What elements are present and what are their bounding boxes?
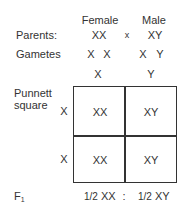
cross-symbol: x [125, 29, 130, 41]
male-header: Male [142, 14, 166, 26]
punnett-label-line1: Punnett [14, 87, 52, 99]
grid-horizontal-divider [74, 135, 176, 137]
parents-label: Parents: [16, 29, 57, 41]
f1-label-text: F [14, 190, 21, 202]
male-gamete-2: Y [156, 48, 163, 60]
genotype: XY [155, 190, 170, 202]
male-gamete-1: X [139, 48, 146, 60]
fraction: 1/2 [84, 191, 98, 202]
row-header-2: X [60, 153, 67, 165]
f1-label: F1 [14, 190, 25, 206]
column-header-x: X [94, 68, 101, 80]
f1-ratio-xx: 1/2 XX [84, 190, 116, 203]
male-parent-genotype: XY [148, 29, 163, 41]
row-header-1: X [60, 105, 67, 117]
column-header-y: Y [147, 68, 154, 80]
fraction: 1/2 [138, 191, 152, 202]
punnett-square: XX XY XX XY [73, 86, 177, 183]
cell-r2-c2: XY [144, 154, 159, 166]
cell-r1-c2: XY [144, 106, 159, 118]
punnett-label-line2: square [14, 99, 48, 111]
female-gamete-2: X [103, 48, 110, 60]
female-parent-genotype: XX [92, 29, 107, 41]
gametes-label: Gametes [16, 48, 61, 60]
female-header: Female [82, 14, 119, 26]
cell-r2-c1: XX [93, 154, 108, 166]
ratio-separator: : [122, 190, 125, 202]
f1-ratio-xy: 1/2 XY [138, 190, 170, 203]
f1-label-subscript: 1 [21, 196, 25, 203]
genotype: XX [101, 190, 116, 202]
female-gamete-1: X [87, 48, 94, 60]
cell-r1-c1: XX [93, 106, 108, 118]
